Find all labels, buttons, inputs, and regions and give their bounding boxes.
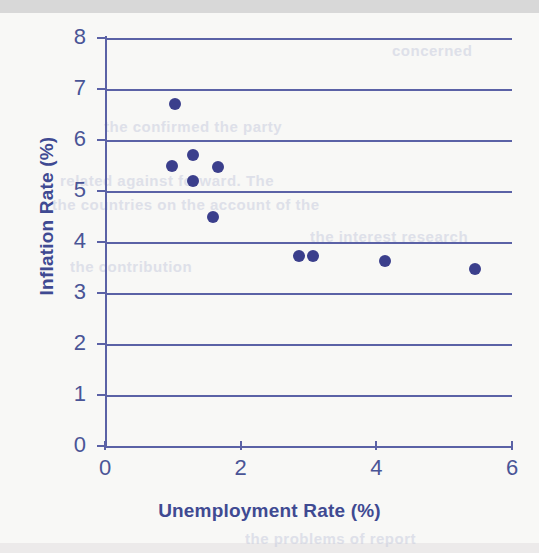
x-axis-title: Unemployment Rate (%) — [0, 500, 539, 522]
y-tick-label: 3 — [60, 279, 86, 305]
y-tick-label: 4 — [60, 228, 86, 254]
data-point — [379, 255, 391, 267]
y-tick-mark — [97, 394, 106, 396]
y-tick-label: 6 — [60, 126, 86, 152]
y-tick-label: 1 — [60, 381, 86, 407]
gridline-y — [105, 242, 512, 244]
x-tick-label: 4 — [361, 455, 391, 481]
y-tick-mark — [97, 241, 106, 243]
x-tick-label: 6 — [497, 455, 527, 481]
y-tick-mark — [97, 190, 106, 192]
gridline-y — [105, 38, 512, 40]
gridline-y — [105, 293, 512, 295]
y-tick-mark — [97, 37, 106, 39]
y-tick-mark — [97, 343, 106, 345]
y-tick-label: 7 — [60, 75, 86, 101]
data-point — [207, 211, 219, 223]
data-point — [307, 250, 319, 262]
gridline-y — [105, 191, 512, 193]
gridline-y — [105, 140, 512, 142]
x-tick-mark — [511, 441, 513, 450]
y-tick-label: 8 — [60, 24, 86, 50]
scanned-page: concernedthe confirmed the partyrelated … — [0, 0, 539, 553]
x-tick-mark — [104, 441, 106, 450]
gridline-y — [105, 89, 512, 91]
y-tick-mark — [97, 139, 106, 141]
data-point — [187, 149, 199, 161]
x-tick-label: 0 — [90, 455, 120, 481]
x-tick-mark — [240, 441, 242, 450]
x-tick-label: 2 — [226, 455, 256, 481]
gridline-y — [105, 344, 512, 346]
data-point — [293, 250, 305, 262]
y-tick-mark — [97, 88, 106, 90]
y-tick-label: 2 — [60, 330, 86, 356]
y-tick-label: 0 — [60, 432, 86, 458]
gridline-y — [105, 395, 512, 397]
y-axis-title: Inflation Rate (%) — [36, 66, 58, 366]
x-axis-line — [104, 446, 513, 448]
x-tick-mark — [375, 441, 377, 450]
y-tick-mark — [97, 292, 106, 294]
data-point — [187, 175, 199, 187]
y-tick-label: 5 — [60, 177, 86, 203]
plot-area — [105, 38, 512, 446]
scatter-chart: 012345678 0246 Inflation Rate (%) Unempl… — [0, 0, 539, 553]
